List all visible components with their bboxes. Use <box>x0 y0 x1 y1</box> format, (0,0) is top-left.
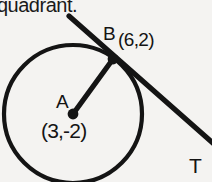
label-tangent-point-coords: (6,2) <box>118 30 154 49</box>
geometry-figure: quadrant. B (6,2) A (3,-2) T <box>0 0 212 182</box>
label-center-point-coords: (3,-2) <box>41 120 86 141</box>
tangent-point-dot <box>108 54 119 65</box>
center-point-dot <box>68 109 79 120</box>
label-point-t: T <box>189 155 202 176</box>
label-center-point-a: A <box>56 92 68 111</box>
label-tangent-point-b: B <box>103 24 115 43</box>
prompt-tail-text: quadrant. <box>0 0 77 15</box>
radius-segment <box>73 59 113 114</box>
